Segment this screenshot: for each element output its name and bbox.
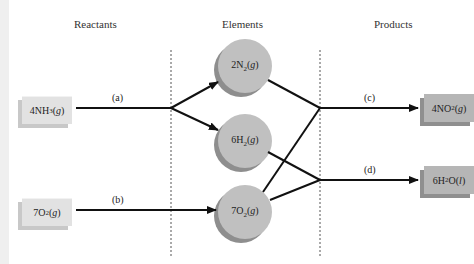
reactant-o2-box: 7O2(g) [22, 198, 72, 226]
step-c-label: (c) [364, 92, 375, 103]
state: g [52, 207, 57, 218]
subscript: 2 [244, 65, 248, 73]
subscript: 2 [451, 104, 455, 112]
subscript: 2 [244, 140, 248, 148]
reactant-nh3-formula: 4NH [30, 105, 49, 116]
formula-tail: O [449, 175, 456, 186]
element-h2-label: 6H2(g) [218, 134, 272, 148]
product-no2-box: 4NO2(g) [424, 94, 474, 122]
reactant-nh3-box: 4NH3(g) [22, 96, 72, 124]
formula: 2N [231, 59, 243, 70]
subscript: 3 [49, 107, 53, 115]
state: g [458, 103, 463, 114]
state: l [459, 175, 462, 186]
state: g [250, 205, 255, 216]
state: g [56, 105, 61, 116]
step-a-label: (a) [112, 92, 123, 103]
step-b-label: (b) [112, 194, 124, 205]
element-n2-label: 2N2(g) [218, 59, 272, 73]
product-h2o-box: 6H2O(l) [424, 166, 474, 194]
formula: 7O [231, 205, 243, 216]
reactant-o2-formula: 7O [33, 207, 45, 218]
subscript: 2 [46, 209, 50, 217]
state: g [250, 59, 255, 70]
formula: 6H [433, 175, 445, 186]
formula: 4NO [432, 103, 451, 114]
step-d-label: (d) [364, 164, 376, 175]
subscript: 2 [244, 211, 248, 219]
element-o2-label: 7O2(g) [218, 205, 272, 219]
state: g [250, 134, 255, 145]
formula: 6H [231, 134, 243, 145]
